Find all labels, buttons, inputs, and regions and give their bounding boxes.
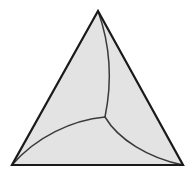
figure-container [0, 0, 196, 177]
triangle-arc-figure [0, 0, 196, 177]
